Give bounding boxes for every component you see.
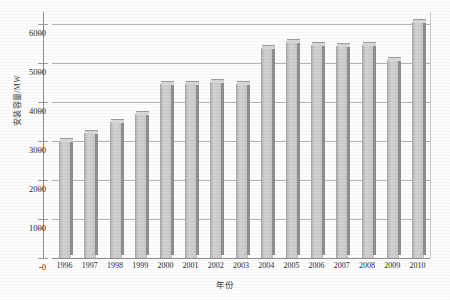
x-axis-tick-label: 2006 [303, 261, 331, 270]
bar-top-face [186, 81, 199, 85]
bar-top-face [111, 119, 124, 123]
bar-side-face [70, 138, 73, 255]
y-axis-tick-mark [39, 267, 43, 268]
bar [59, 141, 70, 258]
bar-top-face [161, 81, 174, 85]
bar-top-face [85, 130, 98, 134]
bar-side-face [146, 111, 149, 255]
y-axis-tick-mark [39, 189, 43, 190]
bar [412, 22, 423, 258]
bar-top-face [262, 45, 275, 49]
bar-top-face [388, 57, 401, 61]
bar-side-face [272, 45, 275, 255]
bar [135, 114, 146, 258]
bar [236, 84, 247, 258]
bar-side-face [221, 79, 224, 255]
x-axis-tick-label: 2003 [227, 261, 255, 270]
x-axis-tick-label: 2010 [403, 261, 431, 270]
bar-chart-figure: 安装容量/MW 19961997199819992000200120022003… [0, 0, 450, 300]
x-axis-tick-label: 2005 [277, 261, 305, 270]
x-axis-tick-labels: 1996199719981999200020012002200320042005… [52, 261, 430, 275]
x-axis-tick-label: 2009 [378, 261, 406, 270]
x-axis-tick-label: 1999 [126, 261, 154, 270]
bar [160, 84, 171, 258]
bar-top-face [60, 138, 73, 142]
bar-side-face [297, 39, 300, 255]
x-axis-title: 年份 [0, 278, 450, 290]
bar-top-face [136, 111, 149, 115]
bar [84, 133, 95, 258]
y-axis-tick-mark [39, 111, 43, 112]
bar [210, 82, 221, 258]
x-axis-tick-label: 2001 [177, 261, 205, 270]
bar-top-face [312, 42, 325, 46]
x-axis-tick-label: 2004 [252, 261, 280, 270]
bar-side-face [171, 81, 174, 255]
x-axis-tick-label: 2007 [328, 261, 356, 270]
bar [110, 122, 121, 258]
bar [261, 48, 272, 258]
bar-top-face [287, 39, 300, 43]
bar-side-face [247, 81, 250, 255]
y-axis-tick-mark [39, 33, 43, 34]
bar-top-face [211, 79, 224, 83]
bar-side-face [322, 42, 325, 255]
gridline [52, 258, 430, 259]
bar-side-face [95, 130, 98, 255]
plot-right-edge [430, 12, 431, 258]
bar [336, 46, 347, 258]
y-axis-tick-mark [39, 72, 43, 73]
bars-layer [52, 12, 430, 258]
bar-side-face [347, 43, 350, 255]
x-axis-tick-label: 1997 [76, 261, 104, 270]
bar-side-face [121, 119, 124, 255]
x-axis-tick-label: 2002 [202, 261, 230, 270]
bar [362, 45, 373, 258]
bar-top-face [237, 81, 250, 85]
bar-side-face [196, 81, 199, 255]
x-axis-tick-label: 1996 [51, 261, 79, 270]
bar-side-face [423, 19, 426, 255]
bar [185, 84, 196, 258]
bar [311, 45, 322, 258]
bar-side-face [398, 57, 401, 255]
x-axis-tick-label: 2000 [151, 261, 179, 270]
x-axis-tick-label: 2008 [353, 261, 381, 270]
x-axis-tick-label: 1998 [101, 261, 129, 270]
bar-top-face [413, 19, 426, 23]
bar-top-face [363, 42, 376, 46]
y-axis-tick-mark [39, 150, 43, 151]
bar-side-face [373, 42, 376, 255]
bar [387, 60, 398, 258]
bar [286, 42, 297, 258]
y-axis-tick-mark [39, 228, 43, 229]
bar-top-face [337, 43, 350, 47]
